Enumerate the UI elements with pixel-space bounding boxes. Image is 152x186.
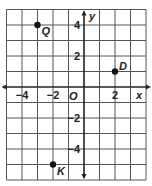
x-tick-label: −4 [16, 89, 29, 101]
y-axis-label: y [88, 10, 96, 22]
x-tick-label: 2 [112, 89, 118, 101]
x-tick-label: −2 [47, 89, 60, 101]
point-d: D [112, 60, 127, 75]
point-label: Q [42, 25, 51, 37]
x-axis-right-arrow-icon [146, 85, 151, 90]
point-label: K [57, 165, 66, 177]
origin-label: O [69, 90, 78, 102]
y-tick-label: 4 [74, 19, 81, 31]
y-axis-down-arrow-icon [82, 174, 87, 179]
point-marker-icon [112, 68, 118, 74]
y-tick-label: −4 [67, 143, 80, 155]
coordinate-plane: −4−2242−2−4 x y O QDK [0, 0, 152, 186]
y-tick-label: 2 [74, 50, 80, 62]
y-tick-label: −2 [67, 112, 80, 124]
y-axis-up-arrow-icon [82, 11, 87, 16]
point-k: K [50, 161, 66, 176]
x-axis-label: x [135, 89, 143, 101]
x-axis-left-arrow-icon [2, 85, 7, 90]
point-marker-icon [50, 161, 56, 167]
point-marker-icon [34, 22, 40, 28]
point-q: Q [34, 22, 50, 37]
point-label: D [119, 60, 127, 72]
